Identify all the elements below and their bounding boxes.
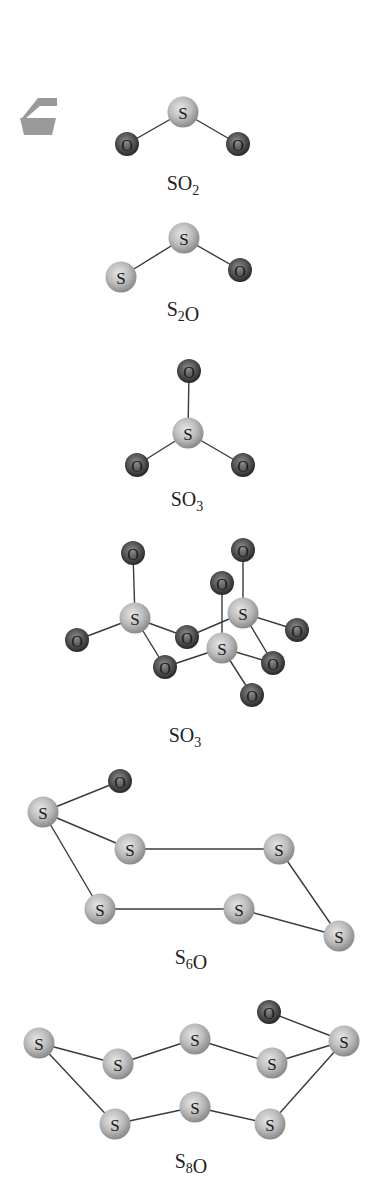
atom-symbol: S <box>339 1033 348 1052</box>
sulfur-atom: S <box>180 1092 211 1123</box>
oxygen-atom: O <box>153 655 177 679</box>
sulfur-atom: S <box>180 1024 211 1055</box>
oxygen-atom: O <box>177 359 201 383</box>
atom-symbol: O <box>291 623 303 640</box>
oxygen-atom: O <box>231 453 255 477</box>
molecule-so3-monomer: SOOOSO3 <box>125 359 255 514</box>
tray-icon <box>20 98 57 135</box>
oxygen-atom: O <box>115 132 139 156</box>
atom-symbol: O <box>263 1005 275 1022</box>
atom-symbol: O <box>232 137 244 154</box>
oxygen-atom: O <box>121 541 145 565</box>
formula-label: SO3 <box>169 724 202 750</box>
oxygen-atom: O <box>125 453 149 477</box>
atom-symbol: S <box>190 1031 199 1050</box>
oxygen-atom: O <box>240 683 264 707</box>
atom-symbol: S <box>130 610 139 629</box>
sulfur-atom: S <box>168 97 199 128</box>
atom-symbol: O <box>216 576 228 593</box>
formula-label: SO3 <box>171 488 204 514</box>
bond-line <box>39 1043 115 1124</box>
atom-symbol: O <box>127 546 139 563</box>
oxygen-atom: O <box>175 625 199 649</box>
molecule-s2o: SSOS2O <box>106 223 253 326</box>
atom-symbol: S <box>190 1099 199 1118</box>
atom-symbol: O <box>181 630 193 647</box>
atom-symbol: S <box>179 230 188 249</box>
molecule-s6o: OSSSSSSS6O <box>28 769 355 973</box>
oxygen-atom: O <box>108 769 132 793</box>
atom-symbol: S <box>274 841 283 860</box>
formula-label: SO2 <box>167 172 200 198</box>
atom-symbol: S <box>34 1035 43 1054</box>
atom-symbol: O <box>159 660 171 677</box>
sulfur-atom: S <box>207 633 238 664</box>
oxygen-atom: O <box>210 571 234 595</box>
diagram-canvas: SOOSO2SSOS2OSOOOSO3OOSOOOOSOSOOSO3OSSSSS… <box>0 0 371 1203</box>
oxygen-atom: O <box>226 132 250 156</box>
atom-symbol: O <box>267 656 279 673</box>
oxygen-atom: O <box>285 618 309 642</box>
sulfur-atom: S <box>85 894 116 925</box>
sulfur-atom: S <box>264 834 295 865</box>
atom-symbol: S <box>110 1116 119 1135</box>
oxygen-atom: O <box>65 628 89 652</box>
sulfur-atom: S <box>173 418 204 449</box>
formula-label: S6O <box>175 946 208 973</box>
atom-symbol: S <box>217 640 226 659</box>
oxygen-atom: O <box>231 538 255 562</box>
sulfur-atom: S <box>169 223 200 254</box>
atom-symbol: S <box>183 425 192 444</box>
sulfur-atom: S <box>255 1109 286 1140</box>
bond-line <box>43 812 100 909</box>
atom-symbol: S <box>116 269 125 288</box>
atom-symbol: S <box>238 605 247 624</box>
sulfur-atom: S <box>100 1109 131 1140</box>
atom-symbol: O <box>234 263 246 280</box>
sulfur-atom: S <box>120 603 151 634</box>
atom-symbol: O <box>114 774 126 791</box>
atom-symbol: S <box>113 1056 122 1075</box>
formula-label: S8O <box>175 1150 208 1177</box>
oxygen-atom: O <box>261 651 285 675</box>
oxygen-atom: O <box>257 1000 281 1024</box>
molecule-so3-trimer: OOSOOOOSOSOOSO3 <box>65 538 309 750</box>
atom-symbol: S <box>178 104 187 123</box>
atom-symbol: S <box>265 1116 274 1135</box>
sulfur-atom: S <box>329 1026 360 1057</box>
molecule-diagram: SOOSO2SSOS2OSOOOSO3OOSOOOOSOSOOSO3OSSSSS… <box>0 0 371 1203</box>
atom-symbol: S <box>234 901 243 920</box>
atom-symbol: O <box>71 633 83 650</box>
atom-symbol: S <box>125 841 134 860</box>
atom-symbol: O <box>183 364 195 381</box>
formula-label: S2O <box>167 298 200 325</box>
oxygen-atom: O <box>228 258 252 282</box>
sulfur-atom: S <box>115 834 146 865</box>
atom-symbol: S <box>334 928 343 947</box>
molecule-so2: SOOSO2 <box>115 97 250 199</box>
atom-symbol: O <box>121 137 133 154</box>
sulfur-atom: S <box>324 921 355 952</box>
atom-symbol: S <box>95 901 104 920</box>
sulfur-atom: S <box>28 797 59 828</box>
molecules-group: SOOSO2SSOS2OSOOOSO3OOSOOOOSOSOOSO3OSSSSS… <box>24 97 360 1178</box>
sulfur-atom: S <box>257 1048 288 1079</box>
atom-symbol: O <box>131 458 143 475</box>
atom-symbol: S <box>38 804 47 823</box>
molecule-s8o: OSSSSSSSSS8O <box>24 1000 360 1177</box>
atom-symbol: S <box>267 1055 276 1074</box>
sulfur-atom: S <box>224 894 255 925</box>
sulfur-atom: S <box>106 262 137 293</box>
sulfur-atom: S <box>103 1049 134 1080</box>
atom-symbol: O <box>237 543 249 560</box>
atom-symbol: O <box>237 458 249 475</box>
sulfur-atom: S <box>228 598 259 629</box>
sulfur-atom: S <box>24 1028 55 1059</box>
atom-symbol: O <box>246 688 258 705</box>
